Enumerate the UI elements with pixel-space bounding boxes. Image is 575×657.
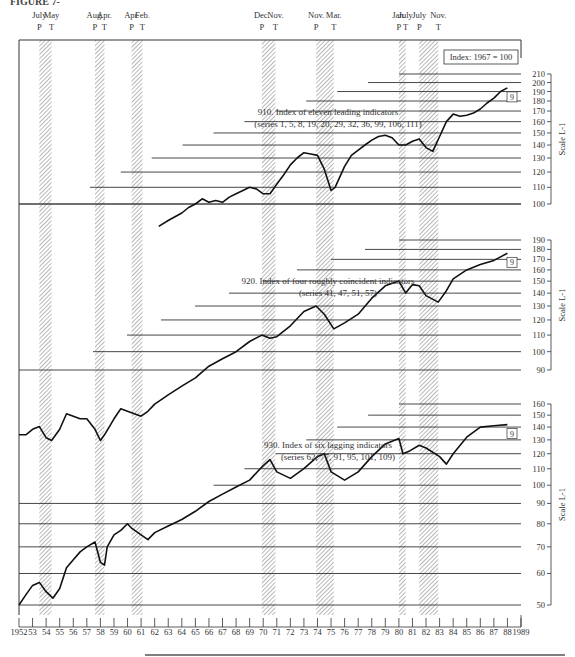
x-tick-label: 70: [259, 627, 268, 637]
x-tick-label: 83: [435, 627, 444, 637]
x-tick-label: 61: [137, 627, 146, 637]
x-tick-label: 58: [96, 627, 105, 637]
panel-subtitle: (series 41, 47, 51, 57): [299, 288, 377, 298]
y-tick-label: 70: [537, 542, 546, 552]
turning-point-type: P: [397, 22, 402, 32]
y-tick-label: 110: [533, 182, 545, 192]
scale-label: Scale L-1: [557, 289, 567, 322]
panel-subtitle: (series 62, 77, 91, 95, 101, 109): [281, 452, 395, 462]
recession-band: [419, 40, 438, 615]
y-tick-label: 50: [537, 600, 546, 610]
x-tick-label: 53: [28, 627, 37, 637]
x-tick-label: 88: [503, 627, 512, 637]
panel-title: 920. Index of four roughly coincident in…: [241, 276, 415, 286]
turning-point-type: P: [259, 22, 264, 32]
y-tick-label: 160: [532, 117, 545, 127]
panel-title: 930. Index of six lagging indicators: [264, 440, 392, 450]
y-tick-label: 190: [532, 87, 545, 97]
panel-subtitle: (series 1, 5, 8, 19, 20, 29, 32, 36, 99,…: [254, 119, 422, 129]
x-tick-label: 1989: [513, 627, 530, 637]
y-tick-label: 120: [532, 449, 545, 459]
y-tick-label: 180: [532, 96, 545, 106]
turning-point-type: P: [93, 22, 98, 32]
turning-point-type: P: [314, 22, 319, 32]
x-tick-label: 82: [422, 627, 431, 637]
x-tick-label: 59: [110, 627, 119, 637]
x-tick-label: 87: [490, 627, 499, 637]
y-tick-label: 170: [532, 106, 545, 116]
x-tick-label: 1952: [11, 627, 28, 637]
x-tick-label: 74: [313, 627, 322, 637]
turning-point-type: P: [417, 22, 422, 32]
turning-point-type: P: [37, 22, 42, 32]
recession-band: [39, 40, 51, 615]
turning-point-month: Nov.: [267, 10, 283, 20]
x-tick-label: 54: [42, 627, 51, 637]
indicator-chart: JulyPMayTAug.PApr.TApr.PFeb.TDec.PNov.TN…: [0, 0, 575, 657]
turning-point-month: May: [44, 10, 60, 20]
x-tick-label: 86: [476, 627, 485, 637]
turning-point-type: T: [436, 22, 442, 32]
y-tick-label: 150: [532, 276, 545, 286]
index-base-box: Index: 1967 = 100: [450, 52, 513, 62]
y-tick-label: 190: [532, 235, 545, 245]
x-tick-label: 76: [340, 627, 349, 637]
y-tick-label: 100: [532, 199, 545, 209]
y-tick-label: 90: [537, 365, 546, 375]
y-tick-label: 120: [532, 315, 545, 325]
x-tick-label: 80: [395, 627, 404, 637]
x-tick-label: 75: [327, 627, 336, 637]
turning-point-type: T: [102, 22, 108, 32]
x-tick-label: 85: [462, 627, 471, 637]
x-tick-label: 64: [178, 627, 187, 637]
turning-point-type: T: [49, 22, 55, 32]
turning-point-type: T: [331, 22, 337, 32]
y-tick-label: 130: [532, 301, 545, 311]
turning-point-type: T: [403, 22, 409, 32]
y-tick-label: 210: [532, 69, 545, 79]
y-tick-label: 90: [537, 498, 546, 508]
y-tick-label: 60: [537, 568, 546, 578]
x-tick-label: 78: [368, 627, 377, 637]
y-tick-label: 160: [532, 265, 545, 275]
turning-point-type: P: [129, 22, 134, 32]
x-tick-label: 81: [408, 627, 417, 637]
panel-title: 910. Index of eleven leading indicators: [258, 107, 399, 117]
x-tick-label: 69: [245, 627, 254, 637]
x-tick-label: 65: [191, 627, 200, 637]
turning-point-month: Apr.: [97, 10, 112, 20]
x-tick-label: 79: [381, 627, 390, 637]
y-tick-label: 170: [532, 254, 545, 264]
x-tick-label: 72: [286, 627, 295, 637]
y-tick-label: 150: [532, 410, 545, 420]
y-tick-label: 140: [532, 140, 545, 150]
x-tick-label: 67: [218, 627, 227, 637]
x-tick-label: 63: [164, 627, 173, 637]
x-tick-label: 55: [55, 627, 64, 637]
x-tick-label: 57: [83, 627, 92, 637]
x-tick-label: 56: [69, 627, 78, 637]
x-tick-label: 66: [205, 627, 214, 637]
turning-point-month: Mar.: [326, 10, 342, 20]
y-tick-label: 100: [532, 347, 545, 357]
latest-month-marker: 9: [510, 430, 514, 439]
latest-month-marker: 9: [510, 93, 514, 102]
y-tick-label: 80: [537, 519, 546, 529]
x-tick-label: 60: [123, 627, 132, 637]
turning-point-month: Nov.: [430, 10, 446, 20]
y-tick-label: 140: [532, 288, 545, 298]
x-tick-label: 62: [150, 627, 159, 637]
turning-point-month: Nov.: [308, 10, 324, 20]
turning-point-month: July: [412, 10, 427, 20]
turning-point-month: Feb.: [135, 10, 150, 20]
x-tick-label: 71: [273, 627, 282, 637]
y-tick-label: 180: [532, 244, 545, 254]
y-tick-label: 140: [532, 422, 545, 432]
x-tick-label: 77: [354, 627, 363, 637]
y-tick-label: 130: [532, 153, 545, 163]
y-tick-label: 100: [532, 480, 545, 490]
y-tick-label: 150: [532, 128, 545, 138]
y-tick-label: 110: [533, 330, 545, 340]
y-tick-label: 200: [532, 78, 545, 88]
y-tick-label: 160: [532, 399, 545, 409]
